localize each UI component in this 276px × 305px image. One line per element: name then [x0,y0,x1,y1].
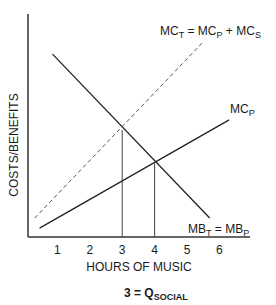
x-tick-label-5: 5 [184,243,191,257]
x-tick-label-2: 2 [86,243,93,257]
chart: 123456 COSTS/BENEFITS HOURS OF MUSIC 3 =… [0,0,276,305]
label-mc-private: MCP [230,102,255,118]
x-tick-label-1: 1 [54,243,61,257]
x-tick-label-3: 3 [119,243,126,257]
y-axis-label: COSTS/BENEFITS [7,93,21,196]
label-mc-total: MCT = MCP + MCS [160,24,261,40]
mc-total-line [35,42,203,218]
x-axis-label: HOURS OF MUSIC [86,260,192,274]
x-tick-label-4: 4 [151,243,158,257]
mb-line [53,54,210,218]
mc-private-line [40,120,230,228]
x-tick-label-6: 6 [216,243,223,257]
label-mb: MBT = MBP [188,222,249,238]
annotation-q-social: 3 = QSOCIAL [124,286,188,302]
